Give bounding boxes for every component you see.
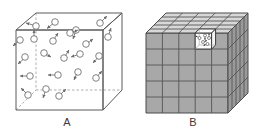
particle (18, 54, 28, 64)
particle (83, 39, 93, 47)
particle (26, 23, 39, 30)
panel-a-label: A (57, 116, 77, 128)
particle (61, 50, 69, 61)
panel-a (13, 13, 122, 110)
particle (21, 88, 31, 98)
particle (47, 19, 58, 29)
particle (20, 73, 33, 80)
particle (48, 72, 61, 79)
particle (71, 51, 83, 58)
particle (13, 37, 23, 46)
figure-container: A B (0, 0, 264, 138)
particle (56, 89, 66, 99)
particle (43, 86, 50, 98)
particle (97, 16, 107, 26)
cube-a-edges (16, 13, 122, 110)
panel-b (146, 13, 248, 113)
highlighted-cell[interactable] (195, 29, 215, 49)
particle (50, 33, 58, 44)
particle-group-a (13, 16, 111, 99)
particle (74, 69, 81, 80)
particle (93, 71, 102, 81)
particle (41, 50, 51, 57)
panel-b-label: B (183, 116, 203, 128)
particle (105, 28, 112, 40)
figure-svg (0, 0, 264, 138)
particle (93, 53, 102, 63)
